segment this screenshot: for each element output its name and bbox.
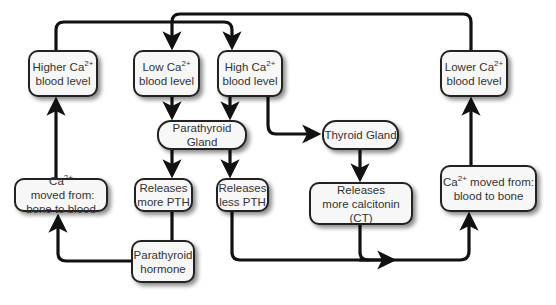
node-text: Ca — [49, 175, 64, 187]
node-text: more PTH — [137, 195, 189, 209]
node-text: Parathyroid Gland — [159, 121, 245, 149]
node-text: blood to bone — [454, 189, 524, 203]
node-line: Low Ca2+ — [142, 60, 190, 74]
node-text: bone to blood — [26, 202, 96, 216]
node-lower-ca-blood-level: Lower Ca2+ blood level — [440, 50, 508, 97]
node-text: hormone — [140, 262, 185, 276]
node-text: moved from: — [467, 176, 534, 188]
connector-arrows — [0, 0, 556, 305]
node-text: less PTH — [219, 195, 266, 209]
node-line: Ca2+ moved from: — [443, 175, 534, 189]
node-text: Lower Ca — [445, 61, 494, 73]
node-text: Low Ca — [142, 61, 181, 73]
node-text: Releases — [337, 183, 385, 197]
node-line: Lower Ca2+ — [445, 60, 503, 74]
node-higher-ca-blood-level: Higher Ca2+ blood level — [28, 50, 98, 97]
node-line: Ca2+ moved from: — [16, 174, 106, 202]
node-ca-moved-blood-to-bone: Ca2+ moved from: blood to bone — [440, 165, 537, 212]
superscript: 2+ — [494, 59, 503, 68]
node-releases-more-pth: Releases more PTH — [134, 178, 193, 212]
superscript: 2+ — [84, 59, 93, 68]
node-releases-less-pth: Releases less PTH — [216, 178, 269, 212]
node-line: High Ca2+ — [225, 60, 276, 74]
node-text: more calcitonin (CT) — [311, 197, 411, 225]
node-text: Releases — [219, 181, 267, 195]
node-text: Parathyroid — [134, 248, 193, 262]
node-text: blood level — [223, 74, 278, 88]
node-low-ca-blood-level: Low Ca2+ blood level — [133, 50, 200, 97]
node-line: Higher Ca2+ — [33, 60, 94, 74]
node-text: High Ca — [225, 61, 267, 73]
node-text: Thyroid Gland — [324, 128, 396, 142]
node-text: blood level — [447, 74, 502, 88]
node-high-ca-blood-level: High Ca2+ blood level — [217, 50, 283, 97]
superscript: 2+ — [181, 59, 190, 68]
node-text: Higher Ca — [33, 61, 85, 73]
node-thyroid-gland: Thyroid Gland — [322, 120, 399, 150]
node-text: moved from: — [27, 189, 94, 201]
node-text: Ca — [443, 176, 458, 188]
node-text: blood level — [36, 74, 91, 88]
node-parathyroid-gland: Parathyroid Gland — [157, 120, 247, 150]
node-parathyroid-hormone: Parathyroid hormone — [131, 240, 195, 283]
superscript: 2+ — [64, 173, 73, 182]
superscript: 2+ — [266, 59, 275, 68]
superscript: 2+ — [458, 174, 467, 183]
node-releases-more-calcitonin: Releases more calcitonin (CT) — [309, 182, 413, 225]
node-text: blood level — [139, 74, 194, 88]
node-text: Releases — [140, 181, 188, 195]
node-ca-moved-bone-to-blood: Ca2+ moved from: bone to blood — [14, 178, 108, 212]
